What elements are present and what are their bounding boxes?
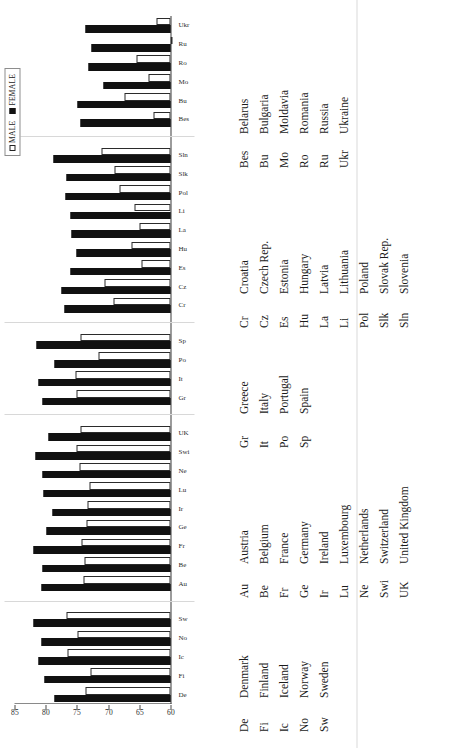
key-row: FiFinland [258, 655, 270, 732]
key-abbreviation: Li [338, 294, 350, 328]
bar-female [66, 174, 170, 182]
key-row: AuAustria [238, 486, 250, 598]
value-axis-line [14, 703, 171, 704]
key-country-name: Germany [298, 521, 310, 564]
bar-male [98, 352, 170, 360]
key-abbreviation: Gr [238, 414, 250, 448]
key-abbreviation: Ukr [338, 134, 350, 168]
key-country-name: Luxembourg [338, 505, 350, 564]
bar-male [113, 298, 170, 306]
key-country-name: United Kingdom [398, 486, 410, 564]
key-divider [356, 448, 357, 748]
bar-female [85, 25, 170, 33]
legend-swatch-male-icon [9, 145, 15, 151]
bar-female [103, 82, 170, 90]
key-abbreviation: UK [398, 564, 410, 598]
key-abbreviation: Ne [358, 564, 370, 598]
key-row: HuHungary [298, 238, 310, 328]
key-abbreviation: Bes [238, 134, 250, 168]
bar-female [35, 452, 170, 460]
key-country-name: Croatia [238, 260, 250, 294]
key-abbreviation: Swi [378, 564, 390, 598]
key-row: BesBelarus [238, 90, 250, 168]
bar-female [54, 695, 170, 703]
key-country-name: Slovenia [398, 254, 410, 294]
bar-female [71, 230, 170, 238]
bar-female [42, 398, 170, 406]
key-abbreviation: Bu [258, 134, 270, 168]
key-country-name: Portugal [278, 375, 290, 414]
key-column: CrCroatiaCzCzech Rep.EsEstoniaHuHungaryL… [238, 238, 418, 328]
key-country-name: Iceland [278, 664, 290, 698]
key-row: SlkSlovak Rep. [378, 238, 390, 328]
key-row: EsEstonia [278, 238, 290, 328]
key-country-name: Hungary [298, 254, 310, 294]
key-abbreviation: Sln [398, 294, 410, 328]
key-row: RuRussia [318, 90, 330, 168]
bar-male [66, 612, 170, 620]
bar-female [46, 527, 170, 535]
key-row: FrFrance [278, 486, 290, 598]
key-country-name: Lithuania [338, 250, 350, 294]
bar-female [70, 268, 170, 276]
key-abbreviation: Ro [298, 134, 310, 168]
bar-female [33, 619, 170, 627]
key-row: SlnSlovenia [398, 238, 410, 328]
key-row: CzCzech Rep. [258, 238, 270, 328]
bar-female [77, 101, 170, 109]
bar-male [141, 260, 170, 268]
key-country-name: Slovak Rep. [378, 238, 390, 294]
key-row: SwiSwitzerland [378, 486, 390, 598]
key-abbreviation: Fr [278, 564, 290, 598]
bar-male [148, 74, 170, 82]
key-row: IrIreland [318, 486, 330, 598]
key-country-name: Bulgaria [258, 94, 270, 134]
bar-male [101, 148, 170, 156]
bar-female [88, 63, 170, 71]
bar-male [75, 371, 170, 379]
key-row: GeGermany [298, 486, 310, 598]
key-abbreviation: Be [258, 564, 270, 598]
bar-male [77, 631, 170, 639]
bar-male [131, 242, 170, 250]
region-separator [4, 136, 194, 137]
key-country-name: Ukraine [338, 97, 350, 134]
key-row: IcIceland [278, 655, 290, 732]
bar-male [170, 37, 172, 45]
key-abbreviation: Po [278, 414, 290, 448]
bar-female [33, 546, 170, 554]
key-row: LiLithuania [338, 238, 350, 328]
key-abbreviation: Sw [318, 698, 330, 732]
bar-female [38, 657, 170, 665]
bar-male [84, 557, 170, 565]
bar-male [89, 482, 170, 490]
key-row: SpSpain [298, 375, 310, 448]
key-row: PoPortugal [278, 375, 290, 448]
bar-female [44, 676, 170, 684]
key-country-name: Belarus [238, 99, 250, 134]
key-country-name: Norway [298, 661, 310, 698]
legend-label-male: MALE [7, 121, 16, 143]
bar-male [87, 501, 170, 509]
bar-female [80, 119, 170, 127]
key-abbreviation: Es [278, 294, 290, 328]
key-country-name: Poland [358, 262, 370, 294]
key-country-name: Austria [238, 530, 250, 564]
bar-male [79, 463, 170, 471]
key-row: CrCroatia [238, 238, 250, 328]
bar-male [80, 334, 170, 342]
bar-female [41, 584, 170, 592]
key-country-name: Estonia [278, 260, 290, 295]
bar-male [80, 426, 170, 434]
bar-male [81, 539, 170, 547]
key-country-name: France [278, 533, 290, 564]
key-abbreviation: Mo [278, 134, 290, 168]
bar-male [85, 687, 170, 695]
bar-female [36, 341, 170, 349]
bar-male [83, 576, 170, 584]
key-abbreviation: Ir [318, 564, 330, 598]
key-country-name: Moldavia [278, 90, 290, 134]
bar-female [42, 471, 170, 479]
key-column: GrGreeceItItalyPoPortugalSpSpain [238, 375, 318, 448]
bar-female [41, 638, 170, 646]
